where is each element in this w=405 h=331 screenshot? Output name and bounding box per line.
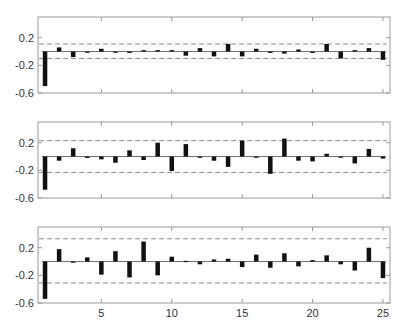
acf-bar [85, 52, 90, 53]
acf-bar [353, 262, 358, 271]
x-tick-label: 25 [377, 307, 389, 319]
acf-bar [353, 157, 358, 164]
acf-bar [226, 157, 231, 167]
acf-bar [240, 262, 245, 268]
acf-bar [254, 255, 258, 262]
acf-bar [85, 257, 90, 261]
acf-figure: 0.2-0.2-0.6 0.2-0.2-0.6 5101520250.2-0.2… [0, 0, 405, 331]
acf-bar [282, 139, 287, 157]
acf-bar [85, 157, 90, 158]
acf-bar [226, 259, 231, 262]
acf-bar [127, 262, 131, 278]
acf-bar [338, 262, 343, 265]
acf-bar [155, 50, 160, 51]
acf-bar [99, 157, 104, 160]
acf-bar [324, 44, 329, 52]
acf-bar [198, 157, 203, 158]
acf-bar [184, 52, 189, 56]
acf-bar [268, 52, 273, 53]
acf-bar [324, 255, 329, 261]
acf-bar [254, 157, 258, 158]
acf-bar [381, 262, 386, 279]
acf-bar [170, 257, 175, 262]
acf-bar [296, 262, 301, 267]
acf-bar [141, 242, 146, 262]
acf-bar [282, 52, 287, 54]
acf-bar [155, 262, 160, 276]
acf-bar [338, 157, 343, 158]
acf-bar [57, 249, 62, 261]
acf-bar [381, 52, 386, 60]
x-tick-label: 10 [166, 307, 178, 319]
acf-bar [212, 157, 217, 161]
acf-bar [184, 261, 189, 262]
acf-bar [170, 50, 175, 51]
acf-bar [268, 262, 273, 268]
y-tick-label: 0.2 [19, 242, 34, 254]
acf-bar [282, 253, 287, 261]
panel-2-lag-correlation: 0.2-0.2-0.6 [15, 122, 390, 204]
acf-bar [184, 144, 189, 156]
acf-bar [212, 259, 217, 261]
acf-bar [99, 49, 104, 52]
acf-bar [170, 157, 175, 172]
acf-bar [43, 52, 48, 87]
y-tick-label: -0.6 [15, 192, 34, 204]
y-tick-label: 0.2 [19, 137, 34, 149]
acf-bar [155, 143, 160, 157]
acf-bar [127, 52, 131, 53]
acf-bar [268, 157, 273, 174]
acf-bar [43, 157, 48, 190]
acf-bar [71, 52, 76, 58]
panel-3-lag-correlation: 5101520250.2-0.2-0.6 [15, 227, 390, 319]
acf-bar [324, 154, 329, 157]
acf-bar [113, 251, 118, 261]
y-tick-label: -0.6 [15, 297, 34, 309]
acf-bar [310, 157, 315, 162]
acf-bar [141, 157, 146, 160]
acf-bar [353, 50, 358, 51]
panel-1-lag-correlation: 0.2-0.2-0.6 [15, 17, 390, 99]
acf-bar [198, 48, 203, 51]
x-tick-label: 15 [236, 307, 248, 319]
acf-bar [113, 52, 118, 53]
acf-bar [71, 148, 76, 156]
acf-bar [141, 50, 146, 51]
acf-bar [99, 262, 104, 275]
acf-bar [296, 49, 301, 51]
acf-bar [43, 262, 48, 299]
acf-bar [240, 52, 245, 57]
acf-bar [226, 44, 231, 52]
x-tick-label: 5 [98, 307, 104, 319]
y-tick-label: -0.2 [15, 269, 34, 281]
y-tick-label: -0.6 [15, 87, 34, 99]
acf-bar [367, 48, 372, 51]
acf-bar [113, 157, 118, 163]
acf-bar [310, 260, 315, 261]
acf-bar [338, 52, 343, 59]
acf-bar [212, 52, 217, 57]
acf-bar [310, 52, 315, 53]
acf-bar [367, 149, 372, 157]
acf-bar [254, 49, 258, 52]
y-tick-label: -0.2 [15, 164, 34, 176]
acf-bar [57, 47, 62, 51]
y-tick-label: 0.2 [19, 32, 34, 44]
acf-bar [71, 262, 76, 263]
acf-bar [198, 262, 203, 265]
y-tick-label: -0.2 [15, 59, 34, 71]
acf-bar [381, 157, 386, 159]
acf-bar [57, 157, 62, 161]
x-tick-label: 20 [306, 307, 318, 319]
acf-bar [127, 150, 131, 156]
acf-bar [240, 141, 245, 157]
acf-bar [367, 248, 372, 262]
acf-bar [296, 157, 301, 161]
